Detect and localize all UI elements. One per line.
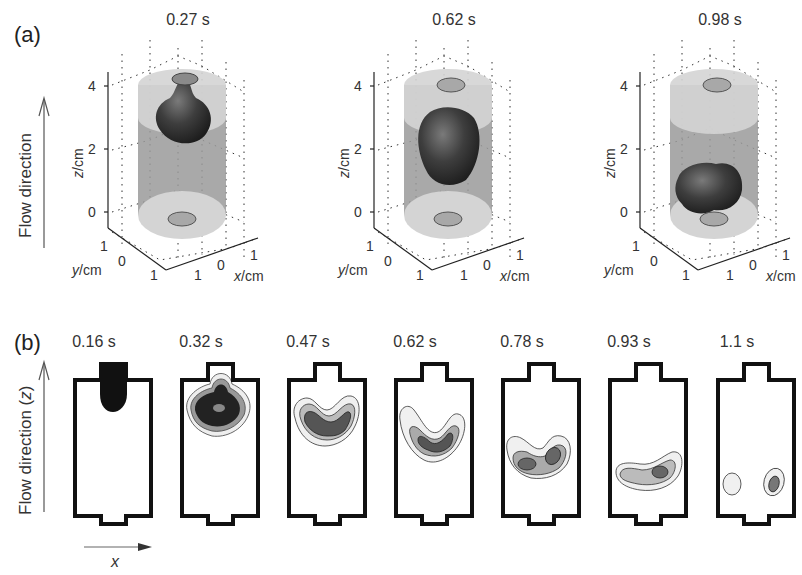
x-axis-label: x/cm	[234, 268, 264, 284]
panel-b-x-axis-label: x	[111, 553, 119, 571]
x-var: x	[766, 268, 773, 284]
x-unit: /cm	[507, 268, 530, 284]
x-tick: 1	[782, 247, 790, 263]
reactor-outline	[55, 325, 173, 535]
y-tick: 1	[416, 267, 424, 283]
x-tick: 1	[250, 247, 258, 263]
x-var: x	[500, 268, 507, 284]
reactor-outline	[483, 325, 601, 535]
x-axis-label: x/cm	[766, 268, 796, 284]
reactor-outline	[698, 325, 802, 535]
y-axis-label: y/cm	[338, 262, 368, 278]
z-tick: 4	[88, 78, 96, 94]
reactor-outline	[376, 325, 494, 535]
flow-label-var: z	[16, 391, 35, 400]
subplot-time-label: 0.27 s	[138, 11, 238, 29]
z-tick: 0	[354, 204, 362, 220]
contour-frame: 0.78 s	[483, 325, 601, 535]
y-unit: /cm	[611, 262, 634, 278]
z-axis-label: z/cm	[336, 148, 352, 178]
y-var: y	[604, 262, 611, 278]
flow-label-close: )	[16, 386, 35, 392]
y-tick: 1	[100, 238, 108, 254]
panel-b-label: (b)	[14, 330, 41, 356]
panel-a-subplot: 0.62 s 4 2 0 z/cm 1 0 1 y/cm 1 0 1 x/cm	[266, 0, 536, 300]
x-axis-label: x/cm	[500, 268, 530, 284]
panel-a-subplot: 0.27 s 4 2 0 z/cm 1 0 1 y/cm 1 0 1 x/cm	[0, 0, 270, 300]
contour-frame: 0.32 s	[162, 325, 280, 535]
x-tick: 1	[726, 267, 734, 283]
x-tick: 0	[749, 257, 757, 273]
y-unit: /cm	[79, 262, 102, 278]
contour-frame: 0.47 s	[269, 325, 387, 535]
z-tick: 2	[620, 141, 628, 157]
contour-frame: 1.1 s	[698, 325, 802, 535]
y-unit: /cm	[345, 262, 368, 278]
x-tick: 1	[460, 267, 468, 283]
subplot-time-label: 0.62 s	[404, 11, 504, 29]
z-tick: 2	[88, 141, 96, 157]
y-tick: 1	[366, 238, 374, 254]
x-tick: 0	[483, 257, 491, 273]
x-unit: /cm	[773, 268, 796, 284]
panel-a-subplot: 0.98 s 4 2 0 z/cm 1 0 1 y/cm 1 0 1 x/cm	[532, 0, 802, 300]
x-tick: 1	[516, 247, 524, 263]
y-var: y	[338, 262, 345, 278]
contour-frame: 0.16 s	[55, 325, 173, 535]
z-unit: /cm	[70, 148, 86, 171]
z-var: z	[602, 171, 618, 178]
x-var: x	[234, 268, 241, 284]
y-var: y	[72, 262, 79, 278]
z-unit: /cm	[336, 148, 352, 171]
z-axis-label: z/cm	[70, 148, 86, 178]
z-tick: 4	[620, 78, 628, 94]
z-tick: 0	[620, 204, 628, 220]
x-tick: 0	[217, 257, 225, 273]
z-axis-label: z/cm	[602, 148, 618, 178]
contour-frame: 0.62 s	[376, 325, 494, 535]
cylinder-3d-plot	[532, 0, 802, 300]
y-tick: 1	[150, 267, 158, 283]
z-var: z	[70, 171, 86, 178]
z-tick: 0	[88, 204, 96, 220]
y-tick: 0	[118, 253, 126, 269]
y-axis-label: y/cm	[72, 262, 102, 278]
z-unit: /cm	[602, 148, 618, 171]
y-tick: 0	[384, 253, 392, 269]
reactor-outline	[269, 325, 387, 535]
y-tick: 0	[650, 253, 658, 269]
panel-b-flow-direction-label: Flow direction (z)	[16, 386, 36, 515]
contour-frame: 0.93 s	[590, 325, 708, 535]
y-tick: 1	[632, 238, 640, 254]
x-tick: 1	[194, 267, 202, 283]
reactor-outline	[162, 325, 280, 535]
reactor-outline	[590, 325, 708, 535]
x-unit: /cm	[241, 268, 264, 284]
cylinder-3d-plot	[266, 0, 536, 300]
y-tick: 1	[682, 267, 690, 283]
z-var: z	[336, 171, 352, 178]
flow-label-text: Flow direction (	[16, 400, 35, 515]
subplot-time-label: 0.98 s	[670, 11, 770, 29]
z-tick: 4	[354, 78, 362, 94]
y-axis-label: y/cm	[604, 262, 634, 278]
z-tick: 2	[354, 141, 362, 157]
cylinder-3d-plot	[0, 0, 270, 300]
